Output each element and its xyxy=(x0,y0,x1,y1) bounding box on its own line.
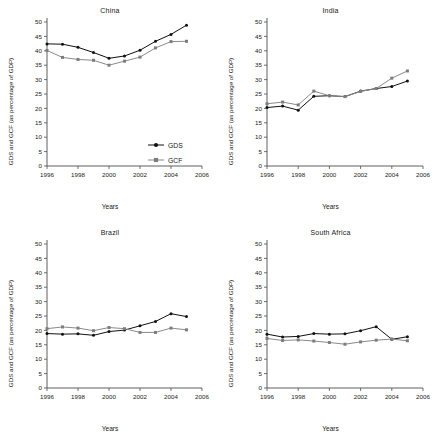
x-axis-label-china: Years xyxy=(0,203,220,210)
svg-text:2002: 2002 xyxy=(133,393,147,400)
svg-text:2000: 2000 xyxy=(102,393,116,400)
svg-text:10: 10 xyxy=(35,355,42,362)
svg-text:35: 35 xyxy=(255,61,262,68)
svg-text:5: 5 xyxy=(39,370,43,377)
svg-text:2006: 2006 xyxy=(195,393,209,400)
svg-text:35: 35 xyxy=(255,283,262,290)
svg-text:10: 10 xyxy=(35,133,42,140)
svg-text:20: 20 xyxy=(255,327,262,334)
svg-text:2004: 2004 xyxy=(385,171,399,178)
svg-text:2004: 2004 xyxy=(164,393,178,400)
svg-text:30: 30 xyxy=(255,76,262,83)
plot-india: 0510152025303540455019961998200020022004… xyxy=(220,0,441,222)
svg-text:1998: 1998 xyxy=(291,393,305,400)
svg-text:40: 40 xyxy=(35,47,42,54)
svg-text:2000: 2000 xyxy=(323,171,337,178)
svg-text:50: 50 xyxy=(255,18,262,25)
svg-text:30: 30 xyxy=(255,298,262,305)
panel-india: India GDS and GCF (as percentage of GDP)… xyxy=(220,0,441,222)
svg-text:30: 30 xyxy=(35,298,42,305)
svg-text:2004: 2004 xyxy=(385,393,399,400)
svg-text:40: 40 xyxy=(35,269,42,276)
panel-china: China GDS and GCF (as percentage of GDP)… xyxy=(0,0,220,222)
svg-text:35: 35 xyxy=(35,283,42,290)
svg-text:25: 25 xyxy=(255,312,262,319)
svg-text:5: 5 xyxy=(39,148,43,155)
svg-text:GCF: GCF xyxy=(168,157,182,164)
svg-text:1996: 1996 xyxy=(260,171,274,178)
svg-text:25: 25 xyxy=(35,90,42,97)
svg-text:15: 15 xyxy=(255,341,262,348)
svg-text:40: 40 xyxy=(255,269,262,276)
svg-text:2006: 2006 xyxy=(416,171,430,178)
svg-text:2002: 2002 xyxy=(354,393,368,400)
figure-grid: China GDS and GCF (as percentage of GDP)… xyxy=(0,0,441,444)
svg-text:50: 50 xyxy=(35,18,42,25)
svg-text:5: 5 xyxy=(259,370,263,377)
svg-text:35: 35 xyxy=(35,61,42,68)
panel-brazil: Brazil GDS and GCF (as percentage of GDP… xyxy=(0,222,220,444)
svg-text:45: 45 xyxy=(255,255,262,262)
plot-south-africa: 0510152025303540455019961998200020022004… xyxy=(220,222,441,444)
svg-text:2002: 2002 xyxy=(354,171,368,178)
svg-text:50: 50 xyxy=(35,240,42,247)
svg-text:2006: 2006 xyxy=(195,171,209,178)
svg-text:0: 0 xyxy=(39,162,43,169)
x-axis-label-south-africa: Years xyxy=(220,425,441,432)
svg-text:45: 45 xyxy=(255,33,262,40)
svg-text:40: 40 xyxy=(255,47,262,54)
panel-south-africa: South Africa GDS and GCF (as percentage … xyxy=(220,222,441,444)
plot-china: 0510152025303540455019961998200020022004… xyxy=(0,0,220,222)
svg-text:15: 15 xyxy=(255,119,262,126)
x-axis-label-brazil: Years xyxy=(0,425,220,432)
svg-text:45: 45 xyxy=(35,33,42,40)
svg-text:20: 20 xyxy=(35,327,42,334)
svg-text:1996: 1996 xyxy=(40,393,54,400)
x-axis-label-india: Years xyxy=(220,203,441,210)
svg-text:45: 45 xyxy=(35,255,42,262)
svg-text:1996: 1996 xyxy=(260,393,274,400)
svg-text:10: 10 xyxy=(255,133,262,140)
svg-text:2000: 2000 xyxy=(102,171,116,178)
svg-text:0: 0 xyxy=(259,162,263,169)
svg-text:1998: 1998 xyxy=(291,171,305,178)
svg-text:15: 15 xyxy=(35,119,42,126)
svg-text:2002: 2002 xyxy=(133,171,147,178)
svg-text:1996: 1996 xyxy=(40,171,54,178)
svg-text:20: 20 xyxy=(255,105,262,112)
svg-text:25: 25 xyxy=(35,312,42,319)
svg-text:1998: 1998 xyxy=(71,171,85,178)
svg-text:30: 30 xyxy=(35,76,42,83)
svg-text:GDS: GDS xyxy=(168,142,183,149)
svg-text:1998: 1998 xyxy=(71,393,85,400)
svg-text:2000: 2000 xyxy=(323,393,337,400)
svg-text:5: 5 xyxy=(259,148,263,155)
svg-text:20: 20 xyxy=(35,105,42,112)
svg-text:10: 10 xyxy=(255,355,262,362)
svg-text:2006: 2006 xyxy=(416,393,430,400)
svg-text:15: 15 xyxy=(35,341,42,348)
svg-text:50: 50 xyxy=(255,240,262,247)
svg-text:0: 0 xyxy=(39,384,43,391)
svg-text:25: 25 xyxy=(255,90,262,97)
svg-text:2004: 2004 xyxy=(164,171,178,178)
plot-brazil: 0510152025303540455019961998200020022004… xyxy=(0,222,220,444)
svg-text:0: 0 xyxy=(259,384,263,391)
